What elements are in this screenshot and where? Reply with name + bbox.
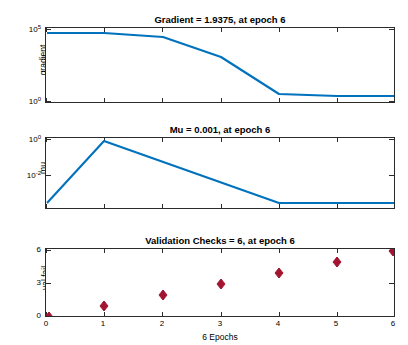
panel-valfail-xtick-3: 3: [218, 319, 222, 328]
panel-mu-ytick-top: 100: [17, 134, 41, 145]
panel-valfail-title: Validation Checks = 6, at epoch 6: [45, 235, 395, 246]
panel-mu-axes: [45, 137, 395, 209]
panel-valfail-ytick-3: 3: [23, 278, 41, 287]
panel-valfail-xtick-0: 0: [44, 319, 48, 328]
panel-gradient-axes: [45, 27, 395, 103]
panel-valfail-markers: [46, 249, 395, 317]
panel-mu-title: Mu = 0.001, at epoch 6: [45, 124, 395, 135]
training-progress-figure: Gradient = 1.9375, at epoch 6 gradient 1…: [0, 0, 408, 345]
panel-valfail-xtick-5: 5: [334, 319, 338, 328]
panel-valfail-xtick-4: 4: [276, 319, 280, 328]
panel-gradient-title: Gradient = 1.9375, at epoch 6: [45, 14, 395, 25]
panel-gradient-line: [46, 28, 395, 103]
panel-valfail-xtick-6: 6: [391, 319, 395, 328]
panel-mu-ytick-mid: 10-2: [14, 170, 41, 181]
panel-mu-line: [46, 138, 395, 209]
panel-gradient: Gradient = 1.9375, at epoch 6 gradient 1…: [45, 27, 395, 103]
panel-valfail-xtick-1: 1: [101, 319, 105, 328]
panel-valfail-ytick-0: 0: [23, 311, 41, 320]
panel-mu: Mu = 0.001, at epoch 6 mu 100 10-2: [45, 137, 395, 209]
panel-valfail-xtick-2: 2: [160, 319, 164, 328]
panel-valfail-ytick-6: 6: [23, 245, 41, 254]
panel-gradient-ytick-top: 105: [17, 24, 41, 35]
panel-valfail-axes: [45, 248, 395, 317]
panel-valfail: Validation Checks = 6, at epoch 6 val fa…: [45, 248, 395, 317]
panel-valfail-xlabel: 6 Epochs: [45, 332, 395, 342]
panel-gradient-ytick-bottom: 100: [17, 96, 41, 107]
